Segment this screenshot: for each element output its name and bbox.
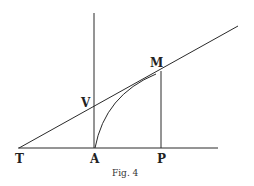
curve-AM <box>95 74 156 148</box>
label-T: T <box>15 152 24 166</box>
label-P: P <box>157 152 166 166</box>
figure-caption: Fig. 4 <box>112 168 139 178</box>
label-M: M <box>150 56 163 70</box>
label-A: A <box>89 152 100 166</box>
label-V: V <box>80 96 91 110</box>
figure-diagram: T A P M V Fig. 4 <box>0 0 254 186</box>
tangent-line-TM <box>19 26 238 148</box>
